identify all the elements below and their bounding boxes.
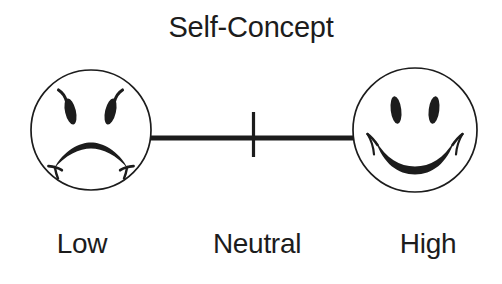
- sad-face-outline: [31, 70, 151, 190]
- axis-label-high: High: [400, 228, 456, 260]
- happy-face: [353, 68, 477, 192]
- sad-face: [31, 70, 151, 190]
- self-concept-figure: Self-Concept: [0, 0, 502, 284]
- axis-label-neutral: Neutral: [213, 228, 301, 260]
- axis-label-low: Low: [57, 228, 107, 260]
